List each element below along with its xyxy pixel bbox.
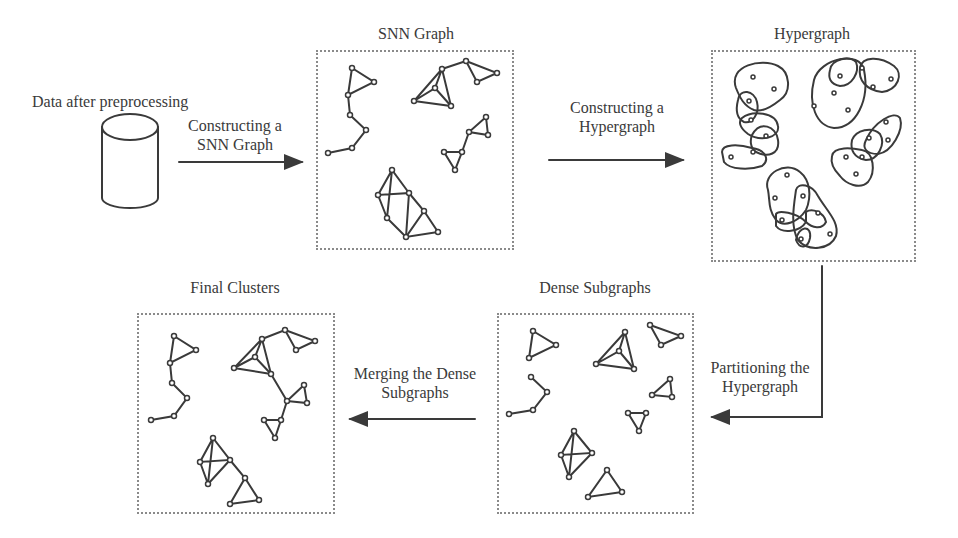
arrow-partition	[712, 266, 822, 417]
database-cylinder-icon	[102, 114, 158, 208]
diagram-canvas	[0, 0, 958, 538]
hypergraph-drawing	[722, 59, 901, 248]
snn-graph-drawing	[326, 59, 500, 240]
dense-subgraphs-drawing	[507, 323, 684, 500]
final-clusters-drawing	[149, 328, 318, 507]
